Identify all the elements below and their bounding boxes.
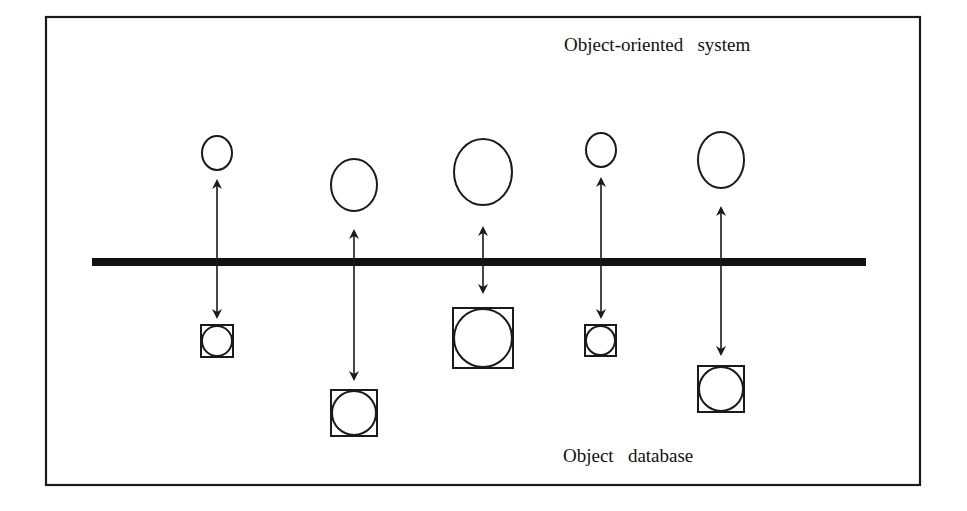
stored-object-circle bbox=[586, 326, 615, 355]
stored-object-circle bbox=[202, 326, 232, 356]
object-oriented-system-label: Object-oriented system bbox=[564, 34, 750, 55]
object-mappings bbox=[201, 132, 744, 436]
mapping-obj-4 bbox=[585, 133, 616, 356]
mapping-obj-5 bbox=[698, 132, 744, 412]
oo-db-mapping-diagram: Object-oriented system Object database bbox=[0, 0, 967, 511]
mapping-obj-1 bbox=[201, 136, 233, 357]
object-circle bbox=[454, 139, 512, 205]
mapping-obj-3 bbox=[453, 139, 513, 368]
stored-object-circle bbox=[699, 367, 743, 411]
stored-object-circle bbox=[332, 391, 376, 435]
object-circle bbox=[331, 159, 377, 211]
object-circle bbox=[698, 132, 744, 188]
mapping-obj-2 bbox=[331, 159, 377, 436]
stored-object-circle bbox=[454, 309, 512, 367]
object-circle bbox=[202, 136, 232, 170]
object-database-label: Object database bbox=[563, 445, 693, 466]
object-circle bbox=[586, 133, 616, 167]
